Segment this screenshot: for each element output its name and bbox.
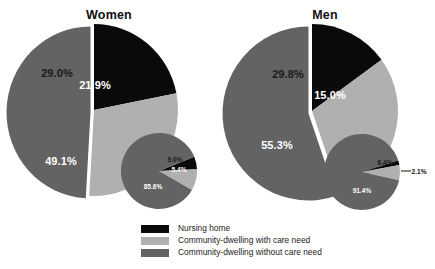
legend-item-without-care-need: Community-dwelling without care need	[141, 248, 322, 257]
inset-label-women-with-care-need: 9.0%	[167, 156, 182, 163]
inset-label-men-without-care-need: 91.4%	[353, 187, 372, 194]
panel-title-women: Women	[0, 8, 218, 22]
slice-label-men-nursing-home: 15.0%	[314, 89, 346, 101]
legend-label-with-care-need: Community-dwelling with care need	[178, 236, 310, 245]
slice-label-women-without-care-need: 49.1%	[45, 155, 77, 167]
legend-swatch-without-care-need	[141, 249, 169, 257]
legend-item-with-care-need: Community-dwelling with care need	[141, 236, 322, 245]
inset-label-women-without-care-need: 85.6%	[144, 183, 163, 190]
legend-label-nursing-home: Nursing home	[178, 224, 230, 233]
inset-label-men-with-care-need: 6.4%	[377, 159, 392, 166]
legend-swatch-with-care-need	[141, 237, 169, 245]
panel-title-men: Men	[215, 8, 435, 22]
pie-chart-figure: Women Men 21.9% 29.0% 49.1% 15.0% 29.8% …	[0, 0, 435, 269]
legend-label-without-care-need: Community-dwelling without care need	[178, 248, 322, 257]
legend-item-nursing-home: Nursing home	[141, 224, 322, 233]
pie-women-inset-svg	[118, 132, 200, 210]
slice-label-women-with-care-need: 29.0%	[41, 67, 73, 79]
slice-label-men-without-care-need: 55.3%	[261, 139, 293, 151]
legend-swatch-nursing-home	[141, 225, 169, 233]
legend: Nursing home Community-dwelling with car…	[141, 224, 322, 257]
pie-women-inset	[118, 132, 200, 210]
inset-label-men-nursing-home: 2.1%	[411, 168, 426, 175]
slice-label-women-nursing-home: 21.9%	[79, 79, 111, 91]
inset-label-women-nursing-home: 5.4%	[171, 166, 186, 173]
slice-label-men-with-care-need: 29.8%	[272, 68, 304, 80]
